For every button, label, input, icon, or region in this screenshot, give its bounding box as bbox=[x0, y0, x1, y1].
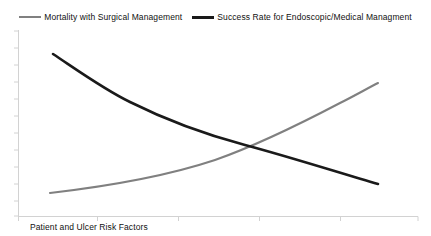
series-line-success-endoscopic bbox=[53, 54, 378, 184]
x-axis-ticks bbox=[19, 217, 419, 222]
plot-svg bbox=[0, 0, 431, 236]
plot-area bbox=[0, 0, 431, 236]
y-axis-ticks bbox=[14, 31, 19, 216]
chart-screenshot: Mortality with Surgical Management Succe… bbox=[0, 0, 431, 236]
x-axis-title: Patient and Ulcer Risk Factors bbox=[30, 222, 148, 232]
series-line-mortality-surgical bbox=[50, 83, 378, 193]
